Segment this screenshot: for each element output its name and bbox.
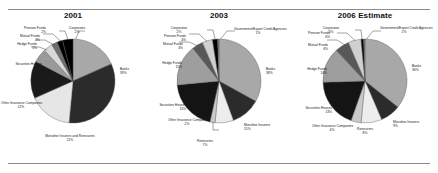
pie-2001 bbox=[29, 37, 117, 125]
pie-2006 bbox=[321, 37, 409, 125]
label-corporates-2001: Corporates 2% bbox=[60, 27, 94, 35]
label-securities-houses-2001: Securities Houses 16% bbox=[0, 63, 42, 71]
label-banks-2001: Banks 39% bbox=[120, 68, 146, 76]
label-government-export-credit-agencies-2003: Government/Export Credit Agencies 1% bbox=[234, 28, 282, 36]
pie-svg-2003 bbox=[175, 37, 263, 125]
label-government-export-credit-agencies-2006: Government/Export Credit Agencies 1% bbox=[380, 27, 428, 35]
label-mutual-funds-2006: Mutual Funds 6% bbox=[292, 44, 328, 52]
pie-svg-2001 bbox=[29, 37, 117, 125]
chart-panel-2001: 2001 bbox=[0, 11, 146, 162]
bottom-divider-rule bbox=[8, 163, 430, 164]
label-other-insurance-companies-2003: Other Insurance Companies 2% bbox=[168, 119, 206, 127]
label-reinsurers-2006: Reinsurers 8% bbox=[350, 128, 380, 136]
pie-2003 bbox=[175, 37, 263, 125]
label-banks-2003: Banks 38% bbox=[266, 68, 292, 76]
panel-title-2003: 2003 bbox=[146, 11, 292, 21]
label-securities-houses-2006: Securities Houses 13% bbox=[292, 107, 332, 115]
label-hedge-funds-2001: Hedge Funds 5% bbox=[1, 43, 37, 51]
label-hedge-funds-2003: Hedge Funds 15% bbox=[146, 62, 182, 70]
label-banks-2006: Banks 36% bbox=[412, 65, 438, 73]
label-hedge-funds-2006: Hedge Funds 14% bbox=[292, 68, 327, 76]
label-monoline-insurers-and-reinsurers-2001: Monoline Insurers and Reinsurers 21% bbox=[44, 135, 96, 143]
panel-title-2006: 2006 Estimate bbox=[292, 11, 438, 21]
label-mutual-funds-2003: Mutual Funds 4% bbox=[146, 43, 183, 51]
label-pension-funds-2006: Pension Funds 6% bbox=[292, 32, 330, 40]
label-monoline-insurers-2003: Monoline Insurers 15% bbox=[244, 124, 290, 132]
top-divider-rule bbox=[8, 9, 430, 10]
chart-panel-2003: 2003 bbox=[146, 11, 292, 162]
label-monoline-insurers-2006: Monoline Insurers 9% bbox=[393, 121, 437, 129]
panel-title-2001: 2001 bbox=[0, 11, 146, 21]
pie-chart-figure: 2001 bbox=[0, 0, 438, 173]
chart-panel-2006: 2006 Estimate bbox=[292, 11, 438, 162]
label-other-insurance-companies-2001: Other Insurance Companies 12% bbox=[1, 102, 41, 110]
label-reinsurers-2003: Reinsurers 7% bbox=[190, 140, 220, 148]
label-securities-houses-2003: Securities Houses 15% bbox=[146, 104, 186, 112]
label-other-insurance-companies-2006: Other Insurance Companies 4% bbox=[312, 125, 352, 133]
pie-svg-2006 bbox=[321, 37, 409, 125]
